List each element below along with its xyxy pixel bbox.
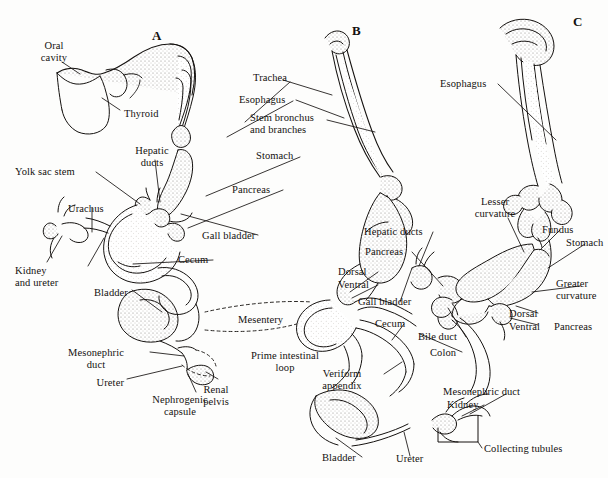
label-cecum-a: Cecum — [178, 254, 208, 266]
label-dorsal-b: Dorsal — [338, 266, 367, 278]
label-mesentery: Mesentery — [238, 314, 283, 326]
label-lesser-curvature: Lesser curvature — [464, 196, 526, 219]
label-ureter-b: Ureter — [396, 453, 423, 465]
label-veriform-appendix: Veriform appendix — [306, 368, 378, 391]
label-kidney-c: Kidney — [447, 399, 479, 411]
label-hepatic-ducts-a: Hepatic ducts — [126, 145, 178, 168]
label-renal-pelvis: Renal pelvis — [196, 384, 236, 407]
label-mesonephric-duct-a: Mesonephric duct — [56, 347, 136, 370]
label-colon: Colon — [430, 347, 456, 359]
label-bladder-a: Bladder — [94, 287, 128, 299]
label-bladder-b: Bladder — [322, 452, 356, 464]
label-ventral-c: Ventral — [509, 321, 540, 333]
label-yolk-sac-stem: Yolk sac stem — [15, 166, 75, 178]
label-mesonephric-duct-c: Mesonephric duct — [443, 386, 520, 398]
label-pancreas-b: Pancreas — [365, 246, 403, 258]
panel-letter-a: A — [152, 28, 161, 44]
panel-letter-c: C — [573, 14, 582, 30]
label-urachus: Urachus — [68, 203, 104, 215]
label-cecum-b: Cecum — [375, 318, 405, 330]
label-pancreas-a: Pancreas — [232, 184, 270, 196]
label-ureter-a: Ureter — [82, 377, 124, 389]
label-oral-cavity: Oral cavity — [28, 40, 80, 63]
label-collecting-tubules: Collecting tubules — [484, 443, 563, 455]
anatomical-figure: A B C Oral cavity Thyroid Hepatic ducts … — [0, 0, 608, 478]
diagram-artwork — [0, 0, 608, 478]
label-stomach-b: Stomach — [256, 150, 293, 162]
label-stem-bronchus: Stem bronchus and branches — [250, 112, 314, 135]
label-gall-bladder-a: Gall bladder — [202, 230, 255, 242]
label-esophagus-b: Esophagus — [239, 94, 285, 106]
label-greater-curvature: Greater curvature — [556, 278, 597, 301]
label-thyroid: Thyroid — [124, 108, 159, 120]
label-hepatic-ducts-b: Hepatic ducts — [364, 226, 423, 238]
label-bile-duct: Bile duct — [418, 331, 457, 343]
panel-letter-b: B — [352, 23, 361, 39]
label-trachea: Trachea — [253, 72, 287, 84]
label-dorsal-c: Dorsal — [509, 308, 538, 320]
label-fundus: Fundus — [542, 224, 574, 236]
label-kidney-and-ureter: Kidney and ureter — [15, 265, 58, 288]
label-esophagus-c: Esophagus — [440, 78, 486, 90]
label-ventral-b: Ventral — [338, 279, 369, 291]
label-gall-bladder-b: Gall bladder — [358, 296, 411, 308]
label-pancreas-c: Pancreas — [554, 321, 592, 333]
label-stomach-c: Stomach — [566, 237, 603, 249]
